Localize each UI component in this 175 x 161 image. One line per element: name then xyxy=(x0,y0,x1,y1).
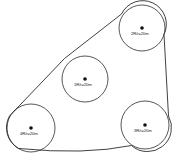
pulley-belt-diagram: 1R/r=20m 2R/r=20m 3R/r=20m 4R/r=20m xyxy=(0,0,175,161)
pulley-top-right-center-dot xyxy=(140,26,144,30)
pulley-top-right-label: 2R/r=20m xyxy=(131,31,149,36)
diagram-canvas xyxy=(0,0,175,161)
pulley-bottom-left-center-dot xyxy=(29,126,33,130)
pulley-middle-center-dot xyxy=(83,77,87,81)
pulley-bottom-left-label: 4R/r=20m xyxy=(20,131,38,136)
pulley-bottom-right-center-dot xyxy=(143,123,147,127)
pulley-bottom-right-label: 3R/r=20m xyxy=(134,128,152,133)
pulley-middle-label: 1R/r=20m xyxy=(74,82,92,87)
